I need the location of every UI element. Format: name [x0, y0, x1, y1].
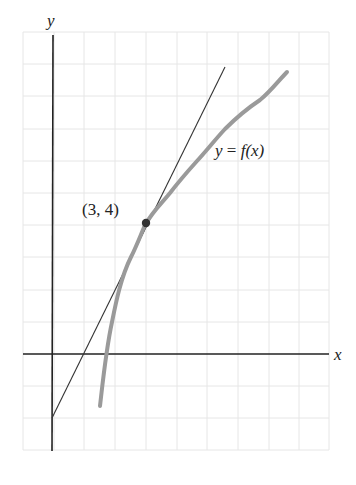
- grid: [23, 32, 329, 450]
- y-axis-label: y: [45, 11, 55, 30]
- point-marker: [142, 219, 150, 227]
- point-label: (3, 4): [82, 200, 119, 219]
- tangent-line-diagram: x y (3, 4) y = f(x): [0, 0, 356, 485]
- x-axis-label: x: [333, 345, 342, 364]
- curve-label-arg: (x): [245, 141, 264, 160]
- function-curve: [100, 72, 287, 406]
- curve-label-y: y: [213, 141, 223, 160]
- y-axis: [52, 35, 53, 451]
- curve-label-eq: =: [223, 141, 241, 160]
- curve-label: y = f(x): [213, 141, 265, 160]
